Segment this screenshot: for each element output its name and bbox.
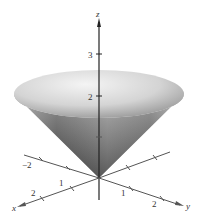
cone-figure: z 3 2 −2 1 2 x 1 2 y xyxy=(0,0,204,213)
y-arrow-icon xyxy=(175,201,184,206)
x-tick-label-2: 2 xyxy=(31,188,36,198)
x-axis-label: x xyxy=(11,203,16,213)
z-arrow-icon xyxy=(97,18,101,27)
z-tick-label-2: 2 xyxy=(88,92,93,102)
y-axis-positive xyxy=(99,178,180,205)
x-tick-label-neg2: −2 xyxy=(22,160,32,170)
axes-front xyxy=(17,178,184,207)
y-tick-label-1: 1 xyxy=(121,188,126,198)
y-axis-label: y xyxy=(185,201,190,211)
y-tick-label-2: 2 xyxy=(152,199,157,209)
x-tick-label-1: 1 xyxy=(59,178,64,188)
cone-plot: z 3 2 −2 1 2 x 1 2 y xyxy=(0,0,204,213)
z-tick-label-3: 3 xyxy=(88,50,93,60)
x-arrow-icon xyxy=(17,202,26,207)
z-axis-label: z xyxy=(95,9,100,19)
